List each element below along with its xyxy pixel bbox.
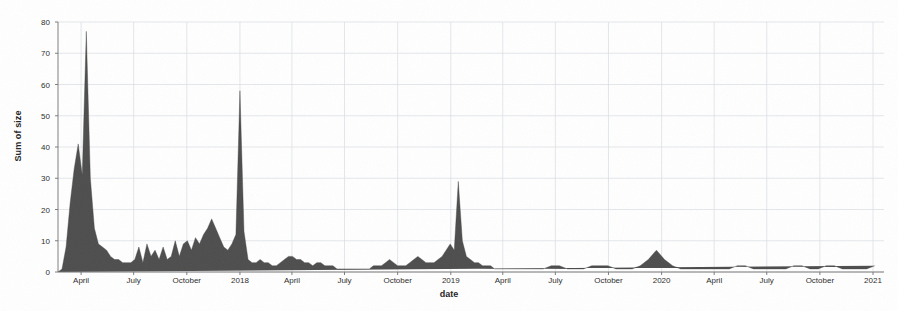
x-axis-tick-label: October	[806, 276, 834, 285]
tick-marks	[55, 22, 873, 275]
x-axis-tick-label: July	[760, 276, 774, 285]
y-axis-tick-label: 20	[24, 205, 50, 214]
y-axis-tick-label: 60	[24, 80, 50, 89]
x-axis-tick-label: 2018	[231, 276, 249, 285]
y-axis-tick-label: 80	[24, 18, 50, 27]
y-axis-tick-label: 10	[24, 236, 50, 245]
y-axis-tick-label: 70	[24, 49, 50, 58]
grid-lines	[58, 22, 884, 272]
x-axis-tick-label: July	[127, 276, 141, 285]
x-axis-tick-label: October	[594, 276, 622, 285]
x-axis-tick-label: July	[337, 276, 351, 285]
x-axis-tick-label: July	[548, 276, 562, 285]
x-axis-tick-label: October	[173, 276, 201, 285]
plot-area	[0, 0, 898, 311]
y-axis-tick-label: 40	[24, 143, 50, 152]
area-chart: Sum of size date 01020304050607080 April…	[0, 0, 898, 311]
x-axis-tick-label: April	[73, 276, 89, 285]
x-axis-tick-label: April	[284, 276, 300, 285]
x-axis-tick-label: 2019	[442, 276, 460, 285]
y-axis-tick-label: 30	[24, 174, 50, 183]
x-axis-tick-label: April	[706, 276, 722, 285]
y-axis-tick-label: 0	[24, 268, 50, 277]
x-axis-tick-label: October	[383, 276, 411, 285]
y-axis-tick-label: 50	[24, 111, 50, 120]
x-axis-tick-label: 2021	[864, 276, 882, 285]
x-axis-tick-label: April	[495, 276, 511, 285]
x-axis-tick-label: 2020	[653, 276, 671, 285]
series-area	[58, 31, 875, 272]
